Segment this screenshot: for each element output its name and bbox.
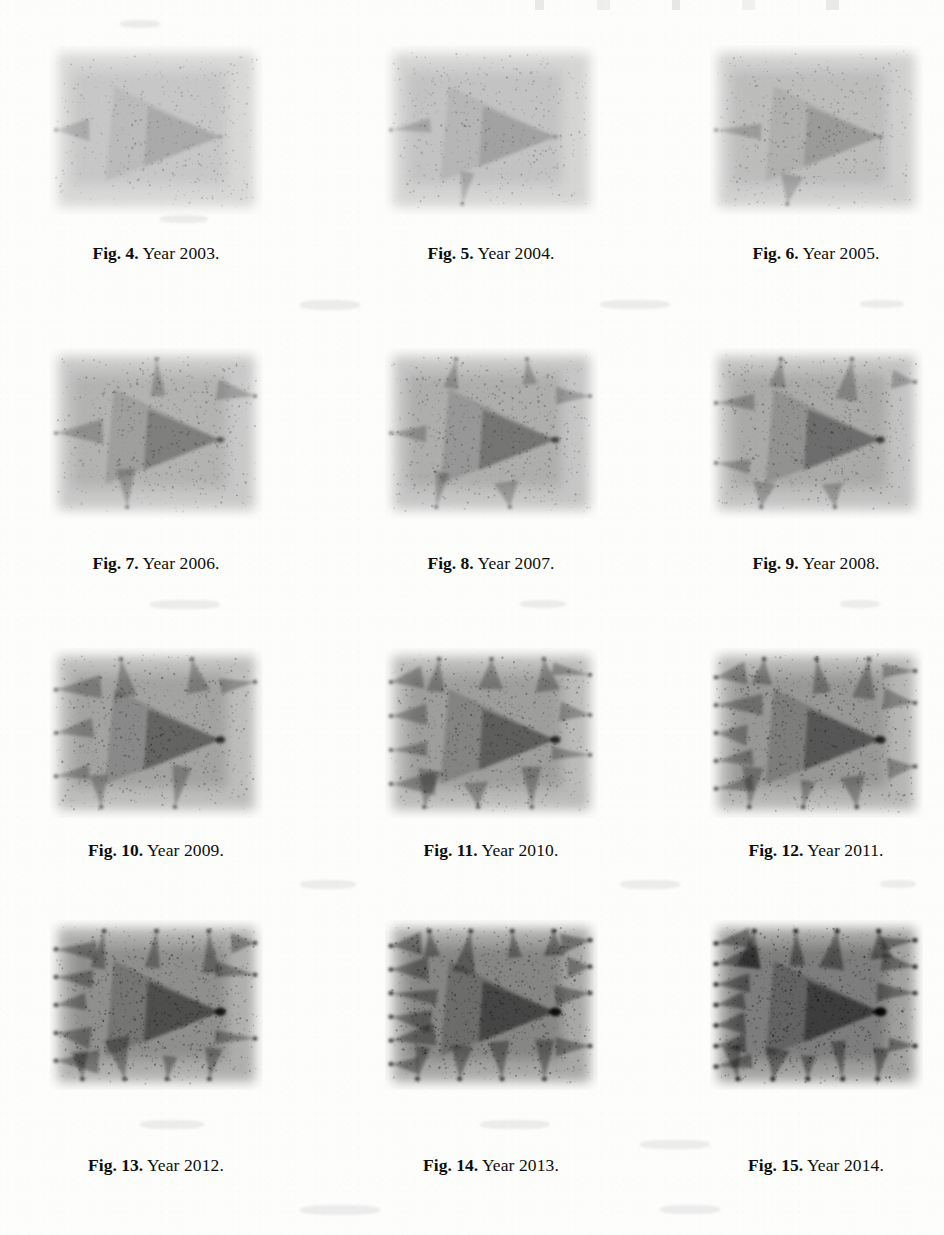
density-scatter-plot	[50, 348, 263, 518]
figure-cell-2007	[355, 348, 627, 518]
figure-caption-2006: Fig. 7. Year 2006.	[20, 553, 292, 573]
figure-caption-text: Year 2009.	[147, 840, 224, 860]
figure-caption-2008: Fig. 9. Year 2008.	[680, 553, 944, 573]
figure-plot-2010	[385, 648, 598, 818]
figure-caption-2010: Fig. 11. Year 2010.	[355, 840, 627, 860]
density-scatter-plot	[385, 45, 598, 215]
figure-grid: Fig. 4. Year 2003.Fig. 5. Year 2004.Fig.…	[0, 0, 944, 1235]
page-canvas: Fig. 4. Year 2003.Fig. 5. Year 2004.Fig.…	[0, 0, 944, 1235]
figure-caption-text: Year 2006.	[143, 553, 220, 573]
figure-number-label: Fig. 4.	[92, 243, 138, 263]
density-scatter-plot	[710, 45, 923, 215]
figure-caption-text: Year 2013.	[482, 1155, 559, 1175]
figure-plot-2013	[385, 920, 598, 1090]
density-scatter-plot	[710, 920, 923, 1090]
figure-number-label: Fig. 7.	[92, 553, 138, 573]
figure-cell-2003	[20, 45, 292, 215]
figure-number-label: Fig. 9.	[752, 553, 798, 573]
figure-caption-text: Year 2008.	[803, 553, 880, 573]
figure-caption-text: Year 2007.	[478, 553, 555, 573]
figure-plot-2009	[50, 648, 263, 818]
density-scatter-plot	[50, 648, 263, 818]
figure-number-label: Fig. 14.	[423, 1155, 478, 1175]
figure-caption-text: Year 2012.	[147, 1155, 224, 1175]
figure-caption-2011: Fig. 12. Year 2011.	[680, 840, 944, 860]
figure-cell-2014	[680, 920, 944, 1090]
figure-plot-2006	[50, 348, 263, 518]
figure-plot-2005	[710, 45, 923, 215]
figure-caption-2012: Fig. 13. Year 2012.	[20, 1155, 292, 1175]
density-scatter-plot	[50, 920, 263, 1090]
density-scatter-plot	[50, 45, 263, 215]
figure-plot-2008	[710, 348, 923, 518]
density-scatter-plot	[385, 920, 598, 1090]
figure-plot-2003	[50, 45, 263, 215]
figure-caption-text: Year 2005.	[803, 243, 880, 263]
figure-number-label: Fig. 13.	[88, 1155, 143, 1175]
figure-cell-2008	[680, 348, 944, 518]
figure-caption-text: Year 2011.	[807, 840, 883, 860]
figure-number-label: Fig. 10.	[88, 840, 143, 860]
figure-cell-2012	[20, 920, 292, 1090]
density-scatter-plot	[710, 348, 923, 518]
figure-caption-2007: Fig. 8. Year 2007.	[355, 553, 627, 573]
density-scatter-plot	[385, 348, 598, 518]
density-scatter-plot	[385, 648, 598, 818]
figure-plot-2012	[50, 920, 263, 1090]
figure-caption-2003: Fig. 4. Year 2003.	[20, 243, 292, 263]
figure-plot-2007	[385, 348, 598, 518]
figure-caption-2009: Fig. 10. Year 2009.	[20, 840, 292, 860]
figure-number-label: Fig. 5.	[427, 243, 473, 263]
density-scatter-plot	[710, 648, 923, 818]
figure-caption-2014: Fig. 15. Year 2014.	[680, 1155, 944, 1175]
figure-caption-text: Year 2004.	[478, 243, 555, 263]
figure-caption-text: Year 2010.	[481, 840, 558, 860]
figure-cell-2011	[680, 648, 944, 818]
figure-number-label: Fig. 12.	[748, 840, 803, 860]
figure-cell-2009	[20, 648, 292, 818]
figure-caption-2013: Fig. 14. Year 2013.	[355, 1155, 627, 1175]
figure-cell-2006	[20, 348, 292, 518]
figure-cell-2004	[355, 45, 627, 215]
figure-number-label: Fig. 15.	[748, 1155, 803, 1175]
figure-cell-2005	[680, 45, 944, 215]
figure-caption-text: Year 2003.	[143, 243, 220, 263]
figure-number-label: Fig. 8.	[427, 553, 473, 573]
figure-plot-2014	[710, 920, 923, 1090]
figure-cell-2013	[355, 920, 627, 1090]
figure-caption-2004: Fig. 5. Year 2004.	[355, 243, 627, 263]
figure-plot-2011	[710, 648, 923, 818]
figure-cell-2010	[355, 648, 627, 818]
figure-plot-2004	[385, 45, 598, 215]
figure-number-label: Fig. 11.	[424, 840, 478, 860]
figure-caption-text: Year 2014.	[807, 1155, 884, 1175]
figure-caption-2005: Fig. 6. Year 2005.	[680, 243, 944, 263]
figure-number-label: Fig. 6.	[752, 243, 798, 263]
